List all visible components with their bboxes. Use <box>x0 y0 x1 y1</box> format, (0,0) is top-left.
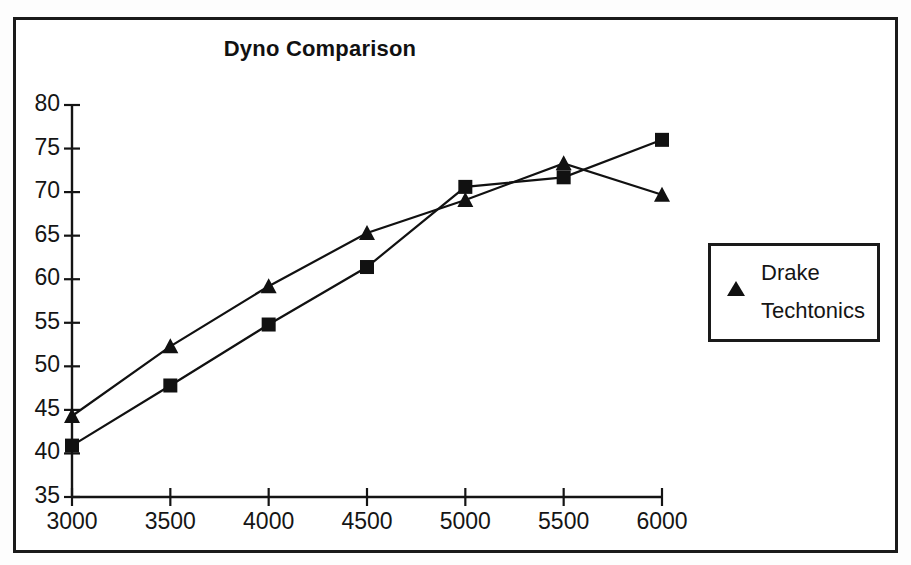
square-marker-icon <box>727 302 745 320</box>
legend-label: Techtonics <box>761 298 865 324</box>
x-tick-label: 6000 <box>617 508 707 535</box>
series-group <box>64 133 670 453</box>
y-tick-label: 75 <box>8 134 60 161</box>
triangle-marker-icon <box>727 264 745 282</box>
x-tick-label: 3500 <box>125 508 215 535</box>
legend-label: Drake <box>761 260 820 286</box>
x-tick-label: 5000 <box>420 508 510 535</box>
y-tick-label: 60 <box>8 264 60 291</box>
x-tick-label: 4000 <box>224 508 314 535</box>
y-tick-label: 45 <box>8 395 60 422</box>
legend-entry-drake: Drake <box>727 260 820 286</box>
y-tick-label: 80 <box>8 90 60 117</box>
x-tick-label: 5500 <box>519 508 609 535</box>
y-tick-label: 35 <box>8 482 60 509</box>
legend-entry-techtonics: Techtonics <box>727 298 865 324</box>
chart-page: Dyno Comparison 35404550556065707580 300… <box>0 0 911 565</box>
y-tick-label: 70 <box>8 177 60 204</box>
x-tick-label: 3000 <box>27 508 117 535</box>
y-tick-label: 50 <box>8 351 60 378</box>
y-tick-label: 65 <box>8 221 60 248</box>
chart-legend: Drake Techtonics <box>708 243 880 342</box>
y-tick-label: 40 <box>8 438 60 465</box>
y-tick-label: 55 <box>8 308 60 335</box>
x-tick-label: 4500 <box>322 508 412 535</box>
